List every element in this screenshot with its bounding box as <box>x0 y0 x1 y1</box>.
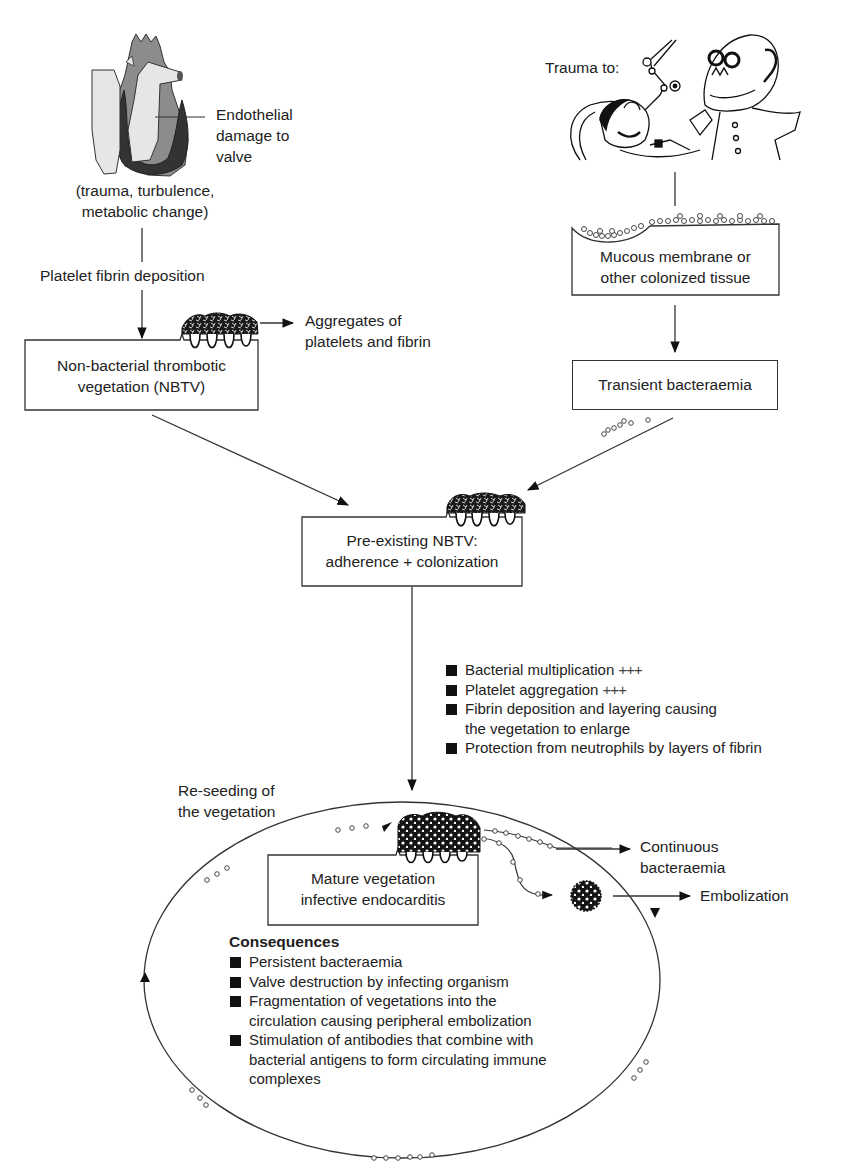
process-item: Protection from neutrophils by layers of… <box>445 738 762 758</box>
continuous-bacteraemia-label: Continuous bacteraemia <box>640 836 725 878</box>
embolus-path <box>482 838 552 895</box>
consequences-section: Consequences Persistent bacteraemia Valv… <box>229 932 547 1089</box>
arrow-bacteraemia-to-preexisting <box>528 418 673 490</box>
vegetation-growth-processes: Bacterial multiplication +++ Platelet ag… <box>445 660 762 758</box>
mucous-membrane-box: Mucous membrane or other colonized tissu… <box>572 224 779 295</box>
transient-bacteraemia-text: Transient bacteraemia <box>573 374 777 395</box>
mature-box-text: Mature vegetation infective endocarditis <box>268 868 478 910</box>
dentist-cartoon-icon <box>571 35 800 160</box>
reseed-arrowhead <box>382 822 392 832</box>
label-line: other colonized tissue <box>572 267 779 288</box>
label-line: vegetation (NBTV) <box>25 376 258 397</box>
preexisting-box-text: Pre-existing NBTV: adherence + colonizat… <box>302 530 522 572</box>
label-line: Pre-existing NBTV: <box>302 530 522 551</box>
label-line: bacteraemia <box>640 857 725 878</box>
mature-vegetation-box: Mature vegetation infective endocarditis <box>268 856 478 925</box>
label-line: Continuous <box>640 836 725 857</box>
label-line: Mucous membrane or <box>572 246 779 267</box>
transient-bacteraemia-box: Transient bacteraemia <box>572 360 778 410</box>
preexisting-nbtv-box: Pre-existing NBTV: adherence + colonizat… <box>302 518 522 586</box>
process-item: Platelet aggregation +++ <box>445 680 762 700</box>
embolus-icon <box>571 881 601 911</box>
label-line: platelets and fibrin <box>305 331 431 352</box>
consequence-item: Valve destruction by infecting organism <box>229 972 547 992</box>
consequence-item: Fragmentation of vegetations into thecir… <box>229 991 547 1030</box>
trauma-to-label: Trauma to: <box>545 57 619 78</box>
label-line: Re-seeding of <box>178 780 275 801</box>
causes-label: (trauma, turbulence, metabolic change) <box>50 180 240 222</box>
platelet-fibrin-label: Platelet fibrin deposition <box>40 265 205 286</box>
nbtv-box-text: Non-bacterial thrombotic vegetation (NBT… <box>25 355 258 397</box>
endothelial-damage-label: Endothelial damage to valve <box>216 104 293 167</box>
label-line: adherence + colonization <box>302 551 522 572</box>
label-line: damage to <box>216 125 293 146</box>
label-line: (trauma, turbulence, <box>50 180 240 201</box>
label-line: infective endocarditis <box>268 889 478 910</box>
label-line: metabolic change) <box>50 201 240 222</box>
label-line: the vegetation <box>178 801 275 822</box>
label-line: Endothelial <box>216 104 293 125</box>
embolization-label: Embolization <box>700 885 789 906</box>
mucous-box-text: Mucous membrane or other colonized tissu… <box>572 246 779 288</box>
process-item: Bacterial multiplication +++ <box>445 660 762 680</box>
consequence-item: Stimulation of antibodies that combine w… <box>229 1030 547 1089</box>
aggregates-label: Aggregates of platelets and fibrin <box>305 310 431 352</box>
consequence-item: Persistent bacteraemia <box>229 952 547 972</box>
bacteria-chain-icon <box>482 837 541 897</box>
consequences-heading: Consequences <box>229 932 547 952</box>
heart-icon <box>92 34 205 176</box>
cycle-arrowhead-down <box>650 908 660 918</box>
label-line: Aggregates of <box>305 310 431 331</box>
process-item: Fibrin deposition and layering causingth… <box>445 699 762 738</box>
label-line: Mature vegetation <box>268 868 478 889</box>
label-line: Non-bacterial thrombotic <box>25 355 258 376</box>
arrow-nbtv-to-preexisting <box>152 415 348 505</box>
nbtv-box: Non-bacterial thrombotic vegetation (NBT… <box>25 341 258 410</box>
label-line: valve <box>216 146 293 167</box>
reseeding-label: Re-seeding of the vegetation <box>178 780 275 822</box>
cycle-arrowhead-up <box>140 972 150 982</box>
